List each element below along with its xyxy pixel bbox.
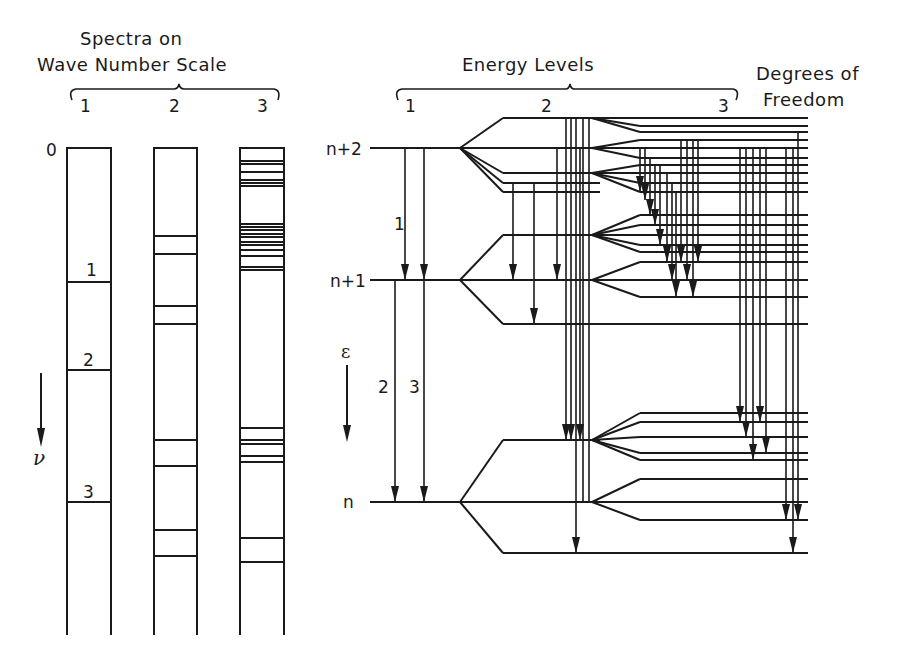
zero-label: 0 [46,140,57,160]
energy-column-label-3: 3 [718,96,729,116]
spectrum-line-label-3: 3 [83,482,94,502]
energy-level-lines [370,118,808,553]
split-line [592,215,640,235]
spectrum-column-3 [240,148,284,635]
spectra-title-line1: Spectra on [80,28,182,49]
split-line [460,280,503,324]
spectrum-line-label-2: 2 [83,350,94,370]
transition-label-2: 2 [378,377,389,397]
transition-label-3: 3 [409,377,420,397]
spectra-panel: Spectra on Wave Number Scale 1 2 3 0 1 2… [33,28,284,635]
energy-levels-panel: Energy Levels 1 2 3 Degrees of Freedom n… [326,54,859,553]
split-line [592,440,640,460]
split-line [592,148,640,158]
arrowhead [651,209,659,225]
arrowhead [567,424,575,440]
energy-column-label-2: 2 [541,96,552,116]
energy-column-label-1: 1 [405,96,416,116]
arrowhead [553,264,561,280]
split-line [592,225,640,235]
split-line [592,502,640,520]
arrowhead [663,246,671,262]
degrees-of-freedom-line2: Freedom [763,89,845,110]
spectra-column-label-1: 1 [80,96,91,116]
arrowhead [401,264,409,280]
arrowhead [794,504,802,520]
arrowhead [683,264,691,280]
spectra-title-line2: Wave Number Scale [37,54,227,75]
split-line [592,262,640,280]
arrowhead [789,537,797,553]
arrowhead [694,246,702,262]
arrowhead [656,229,664,245]
spectrum-column-1 [67,148,111,635]
arrowhead [762,437,770,453]
arrowhead [668,264,676,280]
arrowhead [420,486,428,502]
split-line [592,479,640,502]
energy-levels-brace [397,84,738,100]
degrees-of-freedom-line1: Degrees of [756,63,859,84]
energy-levels-title: Energy Levels [462,54,594,75]
split-line [592,413,640,440]
level-label-n: n [343,492,354,512]
spectra-column-label-2: 2 [169,96,180,116]
split-line [460,118,503,148]
spectrum-column-frame [67,148,111,635]
arrowhead [689,281,697,297]
spectrum-line-label-1: 1 [86,260,97,280]
split-line [460,235,503,280]
split-line [592,280,640,297]
arrowhead [672,281,680,297]
energy-level-diagram: Spectra on Wave Number Scale 1 2 3 0 1 2… [0,0,897,661]
arrowhead [420,264,428,280]
arrowhead [509,264,517,280]
nu-symbol: ν [33,446,45,470]
transition-label-1: 1 [394,214,405,234]
split-line [460,502,503,553]
spectra-columns [67,148,284,635]
spectrum-column-2 [154,148,197,635]
wavenumber-arrow-head [37,428,45,447]
arrowhead [530,308,538,324]
epsilon-symbol: ε [341,341,350,362]
spectra-column-label-3: 3 [257,96,268,116]
arrowhead [782,504,790,520]
level-label-n-plus-2: n+2 [326,139,362,159]
split-line [592,140,640,148]
split-line [460,440,503,502]
arrowhead [742,421,750,437]
arrowhead [572,537,580,553]
split-line [592,165,640,173]
arrowhead [677,246,685,262]
energy-arrow-head [343,425,351,442]
level-label-n-plus-1: n+1 [330,271,366,291]
spectrum-column-frame [154,148,197,635]
arrowhead [391,486,399,502]
